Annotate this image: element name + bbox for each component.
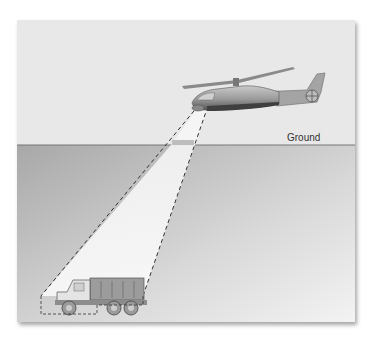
ground-label: Ground	[287, 132, 320, 143]
diagram-panel: Ground	[17, 20, 355, 322]
beam-ground-intersection	[172, 140, 194, 145]
scene	[17, 20, 355, 322]
